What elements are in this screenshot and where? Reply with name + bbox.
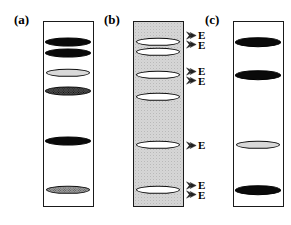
lane-box-c — [233, 21, 284, 207]
marker-b-top-arrows — [186, 31, 197, 49]
zigzag-arrow-icon — [186, 190, 197, 199]
band-a-4 — [45, 87, 91, 96]
marker-b-upper-arrows — [186, 67, 197, 85]
band-c-2 — [235, 70, 281, 80]
marker-b-middle-arrows — [186, 141, 197, 150]
marker-b-middle-label-0: E — [198, 140, 205, 150]
band-c-1 — [235, 37, 281, 47]
marker-b-upper-label-1: E — [198, 76, 205, 86]
band-a-1 — [45, 38, 91, 47]
band-a-2 — [45, 49, 91, 58]
panel-label-b: (b) — [104, 12, 120, 28]
marker-b-top-labels: EE — [198, 30, 205, 50]
zigzag-arrow-icon — [186, 31, 197, 40]
zigzag-arrow-icon — [186, 181, 197, 190]
marker-b-middle: E — [186, 140, 205, 150]
band-a-5 — [45, 137, 91, 146]
marker-b-upper: EE — [186, 66, 205, 86]
marker-b-top: EE — [186, 30, 205, 50]
marker-b-bottom-label-1: E — [198, 190, 205, 200]
zigzag-arrow-icon — [186, 40, 197, 49]
band-c-4 — [235, 185, 281, 195]
figure-canvas: (a)(b)EEEEEEE(c) — [0, 0, 291, 225]
zigzag-arrow-icon — [186, 76, 197, 85]
marker-b-upper-labels: EE — [198, 66, 205, 86]
zigzag-arrow-icon — [186, 67, 197, 76]
panel-label-a: (a) — [14, 12, 29, 28]
panel-label-c: (c) — [205, 12, 219, 28]
marker-b-bottom: EE — [186, 180, 205, 200]
marker-b-top-label-1: E — [198, 40, 205, 50]
marker-b-middle-labels: E — [198, 140, 205, 150]
zigzag-arrow-icon — [186, 141, 197, 150]
marker-b-bottom-labels: EE — [198, 180, 205, 200]
marker-b-bottom-arrows — [186, 181, 197, 199]
